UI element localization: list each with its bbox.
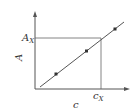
data-point — [114, 28, 117, 31]
calibration-diagram: AX A cX c — [0, 0, 137, 112]
x-axis-label: c — [73, 99, 79, 110]
y-axis-arrow-icon — [33, 11, 37, 17]
data-point — [85, 50, 88, 53]
x-axis-arrow-icon — [124, 87, 130, 91]
calibration-line — [40, 22, 124, 87]
cx-label: cX — [93, 90, 105, 103]
data-point — [55, 73, 58, 76]
ax-label: AX — [21, 32, 35, 45]
y-axis-label: A — [13, 54, 24, 62]
